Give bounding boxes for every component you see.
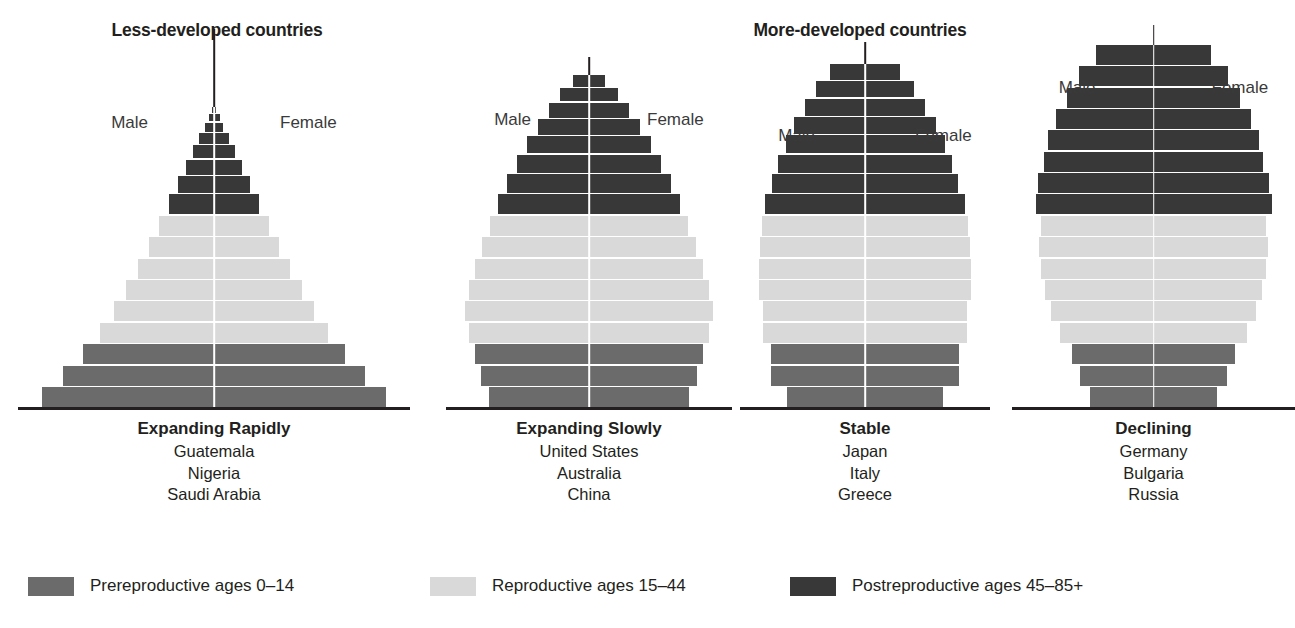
bar-male <box>126 280 214 300</box>
pyramid-bars-expanding-rapidly <box>18 107 410 407</box>
bar-female <box>589 301 713 321</box>
pyramid-baseline <box>18 407 410 410</box>
pyramid-caption-expanding-rapidly: Expanding RapidlyGuatemalaNigeriaSaudi A… <box>18 418 410 505</box>
bar-male <box>1045 280 1154 300</box>
legend-item-reproductive: Reproductive ages 15–44 <box>430 576 686 596</box>
bar-female <box>589 366 697 386</box>
bar-male <box>1060 323 1153 343</box>
bar-row <box>489 387 690 407</box>
bar-male <box>159 216 214 236</box>
pyramid-caption-title: Declining <box>1012 418 1295 440</box>
legend-swatch-reproductive <box>430 577 476 596</box>
pyramid-panel-expanding-rapidly: MaleFemaleExpanding RapidlyGuatemalaNige… <box>18 52 410 442</box>
bar-row <box>762 216 968 236</box>
bar-row <box>159 216 269 236</box>
bar-male <box>560 88 589 101</box>
bar-row <box>771 344 960 364</box>
pyramid-caption-country: Germany <box>1012 441 1295 462</box>
bar-female <box>589 136 651 153</box>
bar-male <box>100 323 214 343</box>
label-male: Male <box>778 126 815 146</box>
bar-female <box>865 387 943 407</box>
bar-male <box>114 301 214 321</box>
legend-label-reproductive: Reproductive ages 15–44 <box>492 576 686 596</box>
pyramid-panel-declining: MaleFemaleDecliningGermanyBulgariaRussia <box>1012 52 1295 442</box>
bar-female <box>1154 301 1257 321</box>
bar-row <box>759 259 971 279</box>
bar-male <box>765 194 865 214</box>
bar-female <box>589 280 709 300</box>
bar-row <box>469 323 710 343</box>
pyramid-caption-stable: StableJapanItalyGreece <box>740 418 990 505</box>
bar-row <box>42 387 386 407</box>
pyramid-apex-line <box>1153 25 1155 45</box>
bar-male <box>482 237 589 257</box>
pyramid-caption-country: United States <box>446 441 732 462</box>
bar-male <box>830 64 865 80</box>
pyramid-caption-title: Stable <box>740 418 990 440</box>
bar-female <box>589 194 680 214</box>
bar-row <box>771 366 960 386</box>
bar-row <box>114 301 314 321</box>
bar-row <box>465 301 713 321</box>
pyramid-caption-country: Guatemala <box>18 441 410 462</box>
bar-female <box>1153 280 1262 300</box>
bar-female <box>865 194 965 214</box>
bar-male <box>763 301 865 321</box>
pyramid-plot-declining: MaleFemale <box>1012 52 1295 407</box>
bar-female <box>214 176 250 193</box>
bar-row <box>481 366 697 386</box>
bar-female <box>1154 387 1218 407</box>
pyramid-baseline <box>1012 407 1295 410</box>
pyramid-bars-stable <box>740 64 990 407</box>
pyramid-apex-line <box>213 29 215 107</box>
pyramid-caption-country: Italy <box>740 463 990 484</box>
bar-row <box>126 280 301 300</box>
bar-male <box>475 259 589 279</box>
bar-row <box>507 174 671 193</box>
pyramid-caption-country: Japan <box>740 441 990 462</box>
bar-female <box>865 81 914 97</box>
bar-male <box>760 237 865 257</box>
bar-row <box>560 88 617 101</box>
label-male: Male <box>1059 78 1096 98</box>
pyramid-panel-expanding-slowly: MaleFemaleExpanding SlowlyUnited StatesA… <box>446 52 732 442</box>
bar-female <box>214 344 345 364</box>
bar-female <box>865 323 967 343</box>
bar-female <box>865 259 971 279</box>
bar-female <box>865 174 958 193</box>
bar-row <box>1039 237 1268 257</box>
bar-female <box>214 366 365 386</box>
bar-female <box>589 119 640 135</box>
bar-male <box>1090 387 1154 407</box>
bar-male <box>771 366 865 386</box>
bar-female <box>1154 130 1259 150</box>
label-female: Female <box>647 110 704 130</box>
bar-male <box>517 155 589 173</box>
bar-male <box>42 387 214 407</box>
legend-item-prereproductive: Prereproductive ages 0–14 <box>28 576 294 596</box>
bar-male <box>772 174 865 193</box>
population-pyramid-figure: Less-developed countries More-developed … <box>0 0 1295 628</box>
bar-row <box>1044 152 1263 172</box>
bar-male <box>762 216 865 236</box>
bar-row <box>1079 66 1228 86</box>
bar-female <box>589 75 605 87</box>
bar-female <box>1154 109 1252 129</box>
bar-male <box>573 75 589 87</box>
bar-male <box>805 99 865 116</box>
bar-male <box>63 366 214 386</box>
bar-male <box>1036 194 1154 214</box>
bar-female <box>214 145 235 158</box>
bar-male <box>149 237 214 257</box>
pyramid-caption-country: Bulgaria <box>1012 463 1295 484</box>
label-female: Female <box>1212 78 1269 98</box>
bar-female <box>214 194 259 214</box>
bar-male <box>469 323 589 343</box>
bar-male <box>763 323 865 343</box>
bar-row <box>763 323 967 343</box>
bar-female <box>214 160 242 175</box>
bar-row <box>169 194 258 214</box>
label-female: Female <box>280 113 337 133</box>
bar-male <box>1041 259 1153 279</box>
